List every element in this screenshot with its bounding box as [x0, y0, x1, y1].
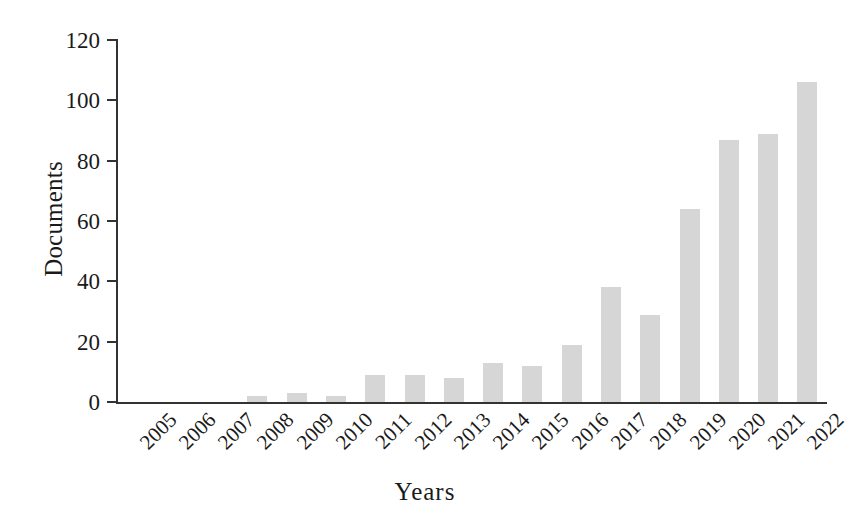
y-axis-tick-label: 60	[0, 210, 100, 233]
bar	[758, 134, 778, 402]
y-axis-tick	[107, 39, 116, 41]
y-axis-tick	[107, 160, 116, 162]
y-axis-tick-label: 120	[0, 29, 100, 52]
bar-chart: Documents 020406080100120 20052006200720…	[0, 0, 850, 525]
bar	[405, 375, 425, 402]
x-axis-tick-label-text: 2022	[804, 409, 849, 454]
bar	[797, 82, 817, 402]
bar	[601, 287, 621, 402]
bar	[719, 140, 739, 402]
bar	[287, 393, 307, 402]
bar	[680, 209, 700, 402]
y-axis-tick	[107, 341, 116, 343]
y-axis-tick	[107, 99, 116, 101]
y-axis-tick	[107, 401, 116, 403]
y-axis-tick	[107, 220, 116, 222]
y-axis-tick-label: 0	[0, 391, 100, 414]
x-axis-title: Years	[0, 478, 850, 506]
bar	[483, 363, 503, 402]
bar	[326, 396, 346, 402]
y-axis-tick	[107, 280, 116, 282]
y-axis-tick-label: 20	[0, 330, 100, 353]
bar	[444, 378, 464, 402]
y-axis-tick-label: 40	[0, 270, 100, 293]
y-axis-tick-label: 80	[0, 149, 100, 172]
bar	[562, 345, 582, 402]
bar	[640, 315, 660, 402]
bar	[522, 366, 542, 402]
x-axis-line	[116, 402, 827, 404]
bar	[365, 375, 385, 402]
y-axis-tick-label: 100	[0, 89, 100, 112]
bar	[247, 396, 267, 402]
plot-area	[118, 40, 825, 402]
